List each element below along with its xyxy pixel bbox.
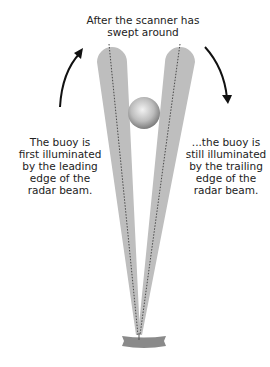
curved-arrow-down-icon: [205, 47, 232, 104]
radar-antenna-icon: [122, 333, 166, 348]
curved-arrow-up-icon: [60, 48, 83, 107]
trailing-edge-caption: ...the buoy is still illuminated by the …: [176, 136, 270, 196]
leading-edge-caption: The buoy is first illuminated by the lea…: [10, 136, 110, 196]
diagram-title: After the scanner has swept around: [60, 14, 226, 38]
buoy-icon: [128, 97, 160, 129]
